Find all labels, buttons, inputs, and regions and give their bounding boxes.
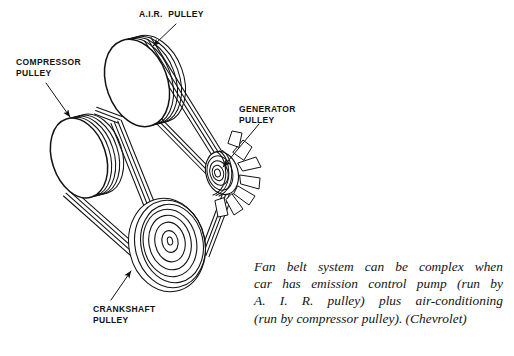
compressor-pulley-label-line1: COMPRESSOR bbox=[16, 57, 81, 67]
crankshaft-leader-arrow bbox=[111, 271, 131, 300]
generator-pulley-label: GENERATORPULLEY bbox=[239, 104, 296, 125]
compressor-leader-arrow bbox=[46, 83, 70, 117]
generator-pulley-label-line2: PULLEY bbox=[239, 115, 275, 125]
crankshaft-pulley-label: CRANKSHAFTPULLEY bbox=[93, 304, 156, 325]
crankshaft-pulley-label-line2: PULLEY bbox=[93, 315, 129, 325]
crankshaft-pulley-label-line1: CRANKSHAFT bbox=[93, 304, 156, 314]
caption-line-2: car has emission control pump (run by bbox=[254, 275, 503, 292]
caption-line-4: (run by compressor pulley). (Chevrolet) bbox=[254, 310, 503, 327]
generator-pulley-label-line1: GENERATOR bbox=[239, 104, 296, 114]
caption-line-3: A. I. R. pulley) plus air-conditioning bbox=[254, 292, 503, 309]
crankshaft-pulley bbox=[120, 191, 214, 299]
compressor-pulley bbox=[41, 107, 134, 206]
figure-caption: Fan belt system can be complex when car … bbox=[254, 258, 503, 327]
compressor-pulley-label: COMPRESSORPULLEY bbox=[16, 57, 81, 78]
caption-line-1: Fan belt system can be complex when bbox=[254, 258, 503, 275]
compressor-pulley-label-line2: PULLEY bbox=[16, 68, 52, 78]
air-pulley-label-line1: A.I.R. PULLEY bbox=[139, 9, 204, 19]
figure-page: A.I.R. PULLEY COMPRESSORPULLEY GENERATOR… bbox=[0, 0, 514, 356]
generator-pulley-and-fan bbox=[201, 131, 261, 217]
air-pulley-label: A.I.R. PULLEY bbox=[139, 9, 204, 20]
